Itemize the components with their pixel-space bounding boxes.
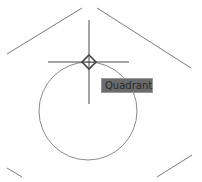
snap-tooltip: Quadrant bbox=[101, 78, 153, 93]
hexagon-edge-bottom-left[interactable] bbox=[7, 168, 22, 177]
hexagon-edge-top-left[interactable] bbox=[7, 8, 82, 54]
snap-tooltip-label: Quadrant bbox=[105, 80, 152, 91]
circle-entity[interactable] bbox=[39, 62, 137, 160]
hexagon-edge-bottom-right[interactable] bbox=[157, 155, 192, 177]
hexagon-edge-top-right[interactable] bbox=[97, 8, 191, 68]
drawing-canvas[interactable]: Quadrant bbox=[0, 0, 202, 182]
